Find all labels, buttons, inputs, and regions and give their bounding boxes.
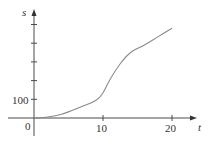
data-curve <box>34 28 172 118</box>
x-axis-arrow-icon <box>190 116 197 121</box>
chart: s t 0 100 10 20 <box>0 0 212 145</box>
x-axis-label: t <box>198 121 202 133</box>
x-tick-label-20: 20 <box>165 122 177 134</box>
origin-label: 0 <box>25 120 31 132</box>
y-axis-label: s <box>22 6 26 18</box>
x-tick-label-10: 10 <box>96 122 108 134</box>
y-tick-label-100: 100 <box>12 94 29 106</box>
y-axis-arrow-icon <box>32 9 37 16</box>
